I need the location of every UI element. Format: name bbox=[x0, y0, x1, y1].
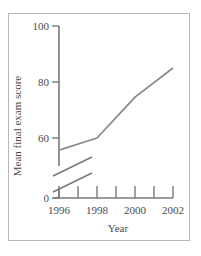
y-tick-label: 0 bbox=[44, 192, 50, 204]
y-tick-label: 60 bbox=[38, 132, 50, 144]
y-tick-label: 80 bbox=[38, 76, 50, 88]
x-tick-label: 1998 bbox=[86, 204, 109, 216]
x-tick-label: 2002 bbox=[162, 204, 184, 216]
y-tick-label: 100 bbox=[33, 20, 50, 32]
axes bbox=[53, 26, 173, 198]
x-axis-label: Year bbox=[108, 222, 129, 234]
series bbox=[59, 68, 173, 150]
series-line bbox=[59, 68, 173, 150]
tick-labels: 060801001996199820002002 bbox=[33, 20, 185, 216]
x-tick-label: 2000 bbox=[124, 204, 147, 216]
x-tick-label: 1996 bbox=[48, 204, 71, 216]
line-chart: 060801001996199820002002 Year Mean final… bbox=[0, 0, 201, 256]
ticks bbox=[52, 26, 173, 198]
y-axis-label: Mean final exam score bbox=[11, 76, 23, 177]
